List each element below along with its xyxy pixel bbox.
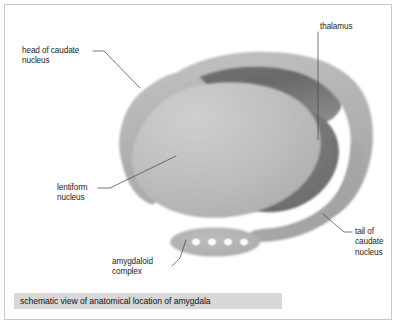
leader-line-head-of-caudate-nucleus <box>93 51 140 88</box>
label-head-of-caudate-nucleus: head of caudate nucleus <box>22 46 79 67</box>
figure-root: head of caudate nucleus thalamus lentifo… <box>0 0 403 328</box>
label-thalamus: thalamus <box>320 22 352 32</box>
label-amygdaloid-complex: amygdaloid complex <box>112 257 153 278</box>
label-tail-of-caudate-nucleus: tail of caudate nucleus <box>355 227 383 258</box>
amygdaloid-complex-shape <box>170 228 260 257</box>
figure-caption: schematic view of anatomical location of… <box>20 295 320 308</box>
label-lentiform-nucleus: lentiform nucleus <box>57 183 88 204</box>
